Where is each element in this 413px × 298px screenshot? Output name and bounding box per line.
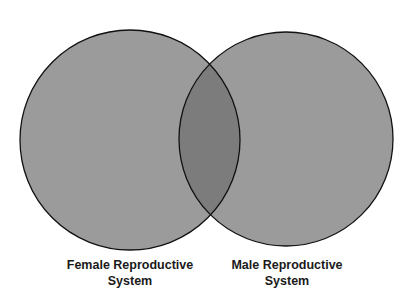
- male-label-line2: System: [202, 273, 372, 289]
- male-set-label: Male Reproductive System: [202, 257, 372, 289]
- venn-diagram: [0, 0, 413, 298]
- male-label-line1: Male Reproductive: [202, 257, 372, 273]
- female-label-line2: System: [45, 273, 215, 289]
- female-set-label: Female Reproductive System: [45, 257, 215, 289]
- female-label-line1: Female Reproductive: [45, 257, 215, 273]
